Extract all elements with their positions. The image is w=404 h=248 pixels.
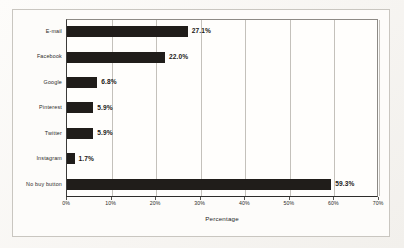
bar xyxy=(67,179,331,190)
bar-value-label: 1.7% xyxy=(79,156,94,163)
x-tick-label: 30% xyxy=(188,201,212,206)
category-label: Instagram xyxy=(0,156,62,161)
bar-value-label: 22.0% xyxy=(169,54,188,61)
bar-and-value: 6.8% xyxy=(67,77,117,88)
x-tick-label: 40% xyxy=(232,201,256,206)
bar-value-label: 5.9% xyxy=(97,130,112,137)
category-label: E-mail xyxy=(0,29,62,34)
x-tick-label: 10% xyxy=(99,201,123,206)
bar-rows-container: E-mail27.1%Facebook22.0%Google6.8%Pinter… xyxy=(0,19,404,197)
bar-value-label: 59.3% xyxy=(335,181,354,188)
bar xyxy=(67,102,93,113)
bar-row: Google6.8% xyxy=(0,70,404,95)
bar-and-value: 22.0% xyxy=(67,52,188,63)
bar-and-value: 5.9% xyxy=(67,102,113,113)
x-tick-label: 50% xyxy=(277,201,301,206)
x-tick-label: 20% xyxy=(143,201,167,206)
bar-row: E-mail27.1% xyxy=(0,19,404,44)
bar xyxy=(67,128,93,139)
bar xyxy=(67,77,97,88)
bar-value-label: 6.8% xyxy=(101,79,116,86)
x-tick-label: 0% xyxy=(54,201,78,206)
bar-and-value: 5.9% xyxy=(67,128,113,139)
bar xyxy=(67,153,75,164)
bar xyxy=(67,52,165,63)
x-axis-title: Percentage xyxy=(66,216,378,222)
x-tick-label: 60% xyxy=(321,201,345,206)
category-label: Pinterest xyxy=(0,105,62,110)
bar-row: Instagram1.7% xyxy=(0,146,404,171)
category-label: Facebook xyxy=(0,54,62,59)
bar-and-value: 1.7% xyxy=(67,153,94,164)
bar-value-label: 5.9% xyxy=(97,105,112,112)
bar-value-label: 27.1% xyxy=(192,28,211,35)
bar-row: Pinterest5.9% xyxy=(0,95,404,120)
bar-and-value: 59.3% xyxy=(67,179,355,190)
category-label: Google xyxy=(0,80,62,85)
bar-row: No buy button59.3% xyxy=(0,172,404,197)
category-label: Twitter xyxy=(0,131,62,136)
x-axis: 0%10%20%30%40%50%60%70% xyxy=(66,197,378,213)
bar-row: Facebook22.0% xyxy=(0,44,404,69)
bar xyxy=(67,26,188,37)
bar-row: Twitter5.9% xyxy=(0,121,404,146)
x-tick-label: 70% xyxy=(366,201,390,206)
bar-and-value: 27.1% xyxy=(67,26,211,37)
category-label: No buy button xyxy=(0,182,62,187)
